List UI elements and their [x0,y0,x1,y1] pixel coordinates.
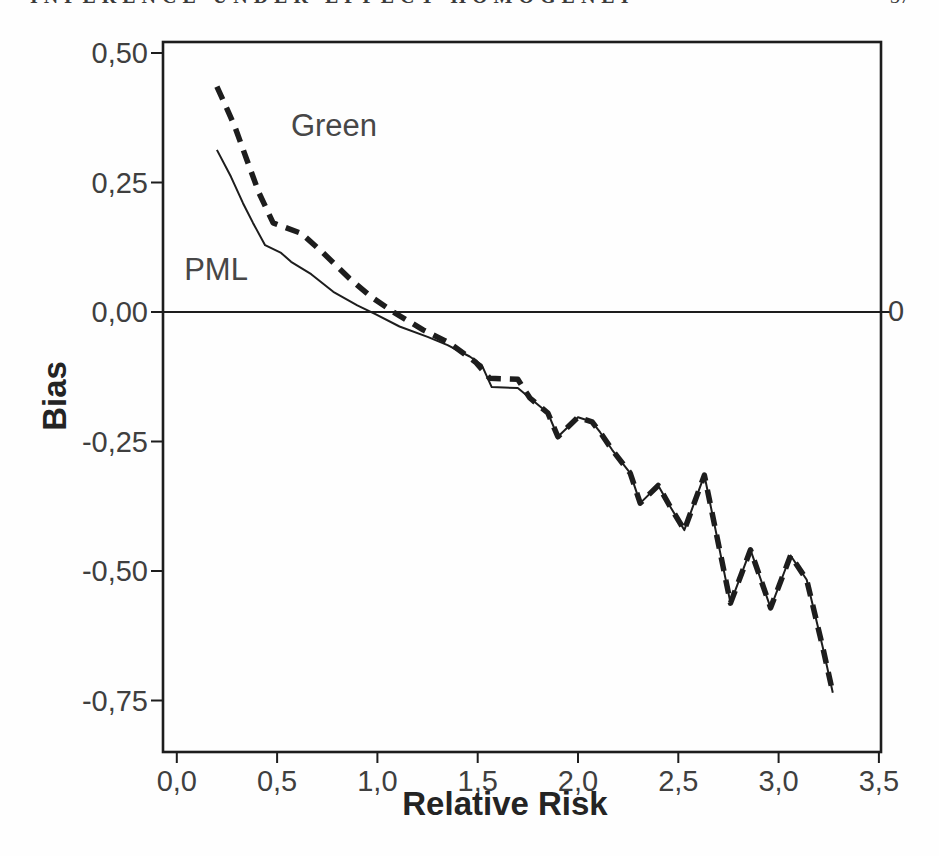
scanned-page: INFERENCE UNDER EFFECT HOMOGENEITY 37 0,… [0,0,939,856]
x-tick-label: 0,0 [137,767,217,796]
y-tick-label: 0,25 [56,169,148,198]
x-tick-label: 3,5 [839,767,919,796]
series-label-pml: PML [184,252,248,288]
plot-frame [163,42,881,752]
zero-reference-right-label: 0 [888,295,904,328]
y-tick-label: -0,75 [56,687,148,716]
y-tick-label: 0,00 [56,298,148,327]
x-tick-label: 3,0 [739,767,819,796]
series-label-green: Green [291,108,377,144]
series-line-green [217,87,833,693]
y-tick-label: -0,25 [56,428,148,457]
x-tick-label: 2,5 [638,767,718,796]
y-axis-title: Bias [36,361,74,431]
series-line-pml [217,150,833,693]
bias-vs-relative-risk-chart: 0,00,51,01,52,02,53,03,50,500,250,00-0,2… [0,0,939,856]
x-tick-label: 0,5 [237,767,317,796]
y-tick-label: -0,50 [56,557,148,586]
y-tick-label: 0,50 [56,39,148,68]
x-axis-title: Relative Risk [402,785,607,823]
